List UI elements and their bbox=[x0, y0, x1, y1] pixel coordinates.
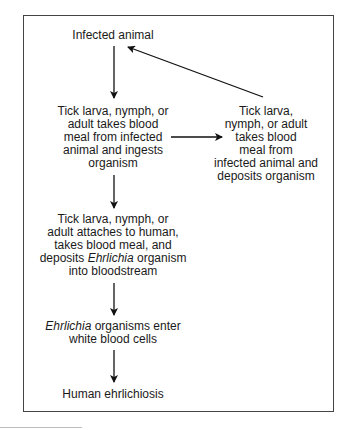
footer-rule bbox=[0, 427, 82, 428]
node-infected-animal: Infected animal bbox=[72, 29, 153, 42]
node-tick-deposits-organism: Tick larva, nymph, or adult takes blood … bbox=[214, 105, 318, 183]
node-text: organism bbox=[58, 157, 169, 170]
node-text: deposits organism bbox=[214, 170, 318, 183]
node-tick-attaches-human: Tick larva, nymph, or adult attaches to … bbox=[40, 213, 187, 278]
node-text: Human ehrlichiosis bbox=[62, 388, 163, 401]
node-enter-white-blood-cells: Ehrlichia organisms enter white blood ce… bbox=[45, 320, 180, 346]
node-text: white blood cells bbox=[45, 333, 180, 346]
node-text-prefix: deposits bbox=[40, 251, 88, 265]
genus-name: Ehrlichia bbox=[88, 251, 134, 265]
node-text-suffix: organism bbox=[134, 251, 187, 265]
node-human-ehrlichiosis: Human ehrlichiosis bbox=[62, 388, 163, 401]
node-tick-ingests-organism: Tick larva, nymph, or adult takes blood … bbox=[58, 105, 169, 170]
node-text: into bloodstream bbox=[40, 265, 187, 278]
node-text: Infected animal bbox=[72, 29, 153, 42]
genus-name: Ehrlichia bbox=[45, 319, 91, 333]
node-text-suffix: organisms enter bbox=[91, 319, 180, 333]
